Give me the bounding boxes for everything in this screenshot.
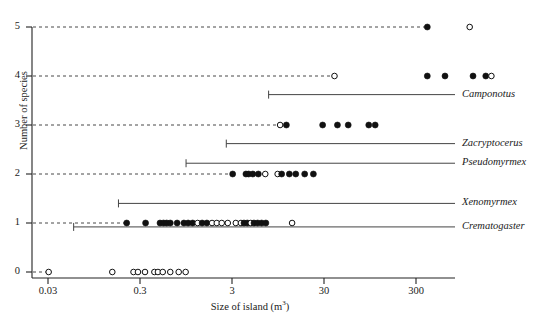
x-tick-label-300: 300: [391, 285, 441, 296]
data-point-filled: [424, 73, 430, 79]
data-point-filled: [250, 171, 256, 177]
data-point-filled: [143, 220, 149, 226]
data-point-filled: [283, 122, 289, 128]
data-point-filled: [483, 73, 489, 79]
x-axis-label: Size of island (m3): [160, 299, 340, 312]
data-point-filled: [263, 220, 269, 226]
y-tick-label-2: 2: [2, 167, 20, 178]
data-point-open: [219, 220, 225, 226]
data-point-filled: [366, 122, 372, 128]
data-point-open: [135, 269, 141, 275]
y-tick-label-0: 0: [2, 265, 20, 276]
data-point-filled: [470, 73, 476, 79]
data-point-open: [160, 269, 166, 275]
y-tick-label-1: 1: [2, 216, 20, 227]
data-point-open: [467, 24, 473, 30]
data-point-open: [176, 269, 182, 275]
data-point-filled: [302, 171, 308, 177]
data-point-open: [110, 269, 116, 275]
genus-label-crematogaster: Crematogaster: [462, 220, 525, 231]
x-tick-label-0.3: 0.3: [115, 285, 165, 296]
data-point-filled: [230, 171, 236, 177]
data-point-open: [225, 220, 231, 226]
data-point-open: [489, 73, 495, 79]
y-tick-label-3: 3: [2, 118, 20, 129]
data-point-filled: [345, 122, 351, 128]
genus-label-zacryptocerus: Zacryptocerus: [462, 137, 523, 148]
x-tick-label-30: 30: [299, 285, 349, 296]
data-point-open: [167, 269, 173, 275]
data-point-filled: [293, 171, 299, 177]
x-tick-label-3: 3: [207, 285, 257, 296]
y-tick-label-5: 5: [2, 20, 20, 31]
data-point-open: [277, 122, 283, 128]
data-point-filled: [279, 171, 285, 177]
data-point-open: [289, 220, 295, 226]
data-point-filled: [334, 122, 340, 128]
data-point-filled: [167, 220, 173, 226]
data-point-filled: [424, 24, 430, 30]
data-point-filled: [320, 122, 326, 128]
genus-label-pseudomyrmex: Pseudomyrmex: [462, 156, 526, 167]
x-axis-label-tail: ): [286, 301, 290, 312]
data-point-open: [262, 171, 268, 177]
genus-label-camponotus: Camponotus: [462, 88, 515, 99]
data-point-filled: [372, 122, 378, 128]
data-point-filled: [124, 220, 130, 226]
data-point-filled: [310, 171, 316, 177]
data-point-open: [332, 73, 338, 79]
data-point-filled: [442, 73, 448, 79]
genus-label-xenomyrmex: Xenomyrmex: [462, 196, 517, 207]
data-point-open: [183, 269, 189, 275]
ant-species-island-size-scatter-figure: Number of species Size of island (m3) 01…: [0, 0, 550, 327]
x-tick-label-0.03: 0.03: [23, 285, 73, 296]
y-tick-label-4: 4: [2, 69, 20, 80]
data-point-filled: [286, 171, 292, 177]
data-point-filled: [255, 171, 261, 177]
x-axis-label-text: Size of island (m: [211, 301, 282, 312]
data-point-open: [142, 269, 148, 275]
data-point-filled: [174, 220, 180, 226]
y-axis-label: Number of species: [18, 41, 29, 181]
data-point-open: [46, 269, 52, 275]
